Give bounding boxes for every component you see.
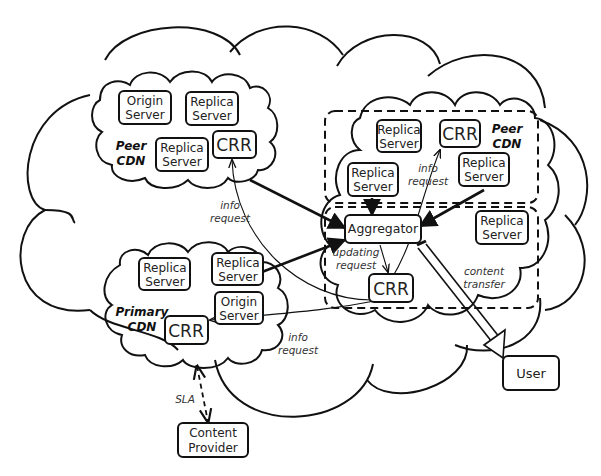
svg-text:Primary: Primary <box>116 305 170 319</box>
replica-server-primary-1[interactable]: Replica Server <box>139 258 190 290</box>
cdn-federation-diagram: Origin Server Replica Server Replica Ser… <box>0 0 601 476</box>
svg-text:CDN: CDN <box>128 320 157 334</box>
replica-server-peer-right-1[interactable]: Replica Server <box>377 120 421 152</box>
svg-text:Replica: Replica <box>160 141 203 155</box>
svg-text:Server: Server <box>464 170 503 184</box>
svg-text:info: info <box>220 199 240 211</box>
svg-text:transfer: transfer <box>463 278 505 290</box>
svg-text:CRR: CRR <box>168 321 204 341</box>
svg-text:Server: Server <box>125 108 164 122</box>
replica-server-peer-left-1[interactable]: Replica Server <box>186 92 238 125</box>
svg-text:Peer: Peer <box>492 122 524 136</box>
svg-text:CDN: CDN <box>493 137 522 151</box>
svg-text:Replica: Replica <box>377 123 420 137</box>
svg-text:Replica: Replica <box>216 256 259 270</box>
svg-text:request: request <box>408 175 449 187</box>
svg-text:Server: Server <box>482 228 521 242</box>
svg-text:Origin: Origin <box>127 94 163 108</box>
svg-text:Replica: Replica <box>480 214 523 228</box>
svg-text:Origin: Origin <box>221 295 257 309</box>
svg-text:Server: Server <box>162 155 201 169</box>
origin-server-peer-left[interactable]: Origin Server <box>119 91 171 124</box>
svg-text:Server: Server <box>353 180 392 194</box>
svg-text:Content: Content <box>189 426 237 440</box>
label-info-request-top: info request <box>408 162 449 187</box>
arrow-peer-replica-to-aggregator <box>250 180 345 228</box>
user[interactable]: User <box>503 356 559 390</box>
svg-text:CRR: CRR <box>216 135 252 155</box>
primary-cdn-label: Primary CDN <box>116 305 170 334</box>
peer-cdn-left-label: Peer CDN <box>116 139 148 168</box>
arrow-content-transfer <box>417 241 505 358</box>
svg-text:CRR: CRR <box>373 279 409 299</box>
svg-text:Server: Server <box>192 109 231 123</box>
svg-text:Peer: Peer <box>116 139 148 153</box>
label-updating-request: updating request <box>333 246 380 271</box>
svg-text:Replica: Replica <box>190 95 233 109</box>
replica-server-primary-2[interactable]: Replica Server <box>212 253 263 285</box>
svg-text:User: User <box>516 366 546 381</box>
svg-text:Replica: Replica <box>143 261 186 275</box>
svg-text:Server: Server <box>219 309 258 323</box>
label-content-transfer: content transfer <box>463 265 505 290</box>
svg-text:info: info <box>418 162 438 174</box>
crr-aggregator-zone[interactable]: CRR <box>369 274 413 302</box>
svg-text:CRR: CRR <box>442 124 478 144</box>
crr-primary[interactable]: CRR <box>165 316 208 344</box>
crr-peer-right[interactable]: CRR <box>440 120 480 147</box>
svg-text:CDN: CDN <box>117 154 146 168</box>
origin-server-primary[interactable]: Origin Server <box>215 292 263 324</box>
svg-text:info: info <box>288 331 308 343</box>
svg-text:content: content <box>464 265 505 277</box>
svg-text:Server: Server <box>218 270 257 284</box>
svg-text:request: request <box>278 344 319 356</box>
label-sla: SLA <box>175 393 195 405</box>
replica-server-peer-right-3[interactable]: Replica Server <box>459 153 509 186</box>
arrow-updating-request <box>380 245 388 272</box>
svg-text:updating: updating <box>333 246 380 258</box>
label-info-request-bottom: info request <box>278 331 319 356</box>
svg-text:request: request <box>210 212 251 224</box>
content-provider[interactable]: Content Provider <box>178 423 248 457</box>
aggregator[interactable]: Aggregator <box>345 215 421 243</box>
svg-text:Provider: Provider <box>188 441 237 455</box>
crr-peer-left[interactable]: CRR <box>213 131 256 158</box>
svg-text:Aggregator: Aggregator <box>348 221 419 236</box>
arrow-sla <box>197 366 208 422</box>
svg-text:request: request <box>336 259 377 271</box>
svg-text:Server: Server <box>379 137 418 151</box>
replica-server-aggregator-zone[interactable]: Replica Server <box>476 211 528 244</box>
svg-text:Replica: Replica <box>462 156 505 170</box>
label-info-request-left: info request <box>210 199 251 224</box>
replica-server-peer-right-2[interactable]: Replica Server <box>348 163 398 196</box>
peer-cdn-right-label: Peer CDN <box>492 122 524 151</box>
replica-server-peer-left-2[interactable]: Replica Server <box>156 138 208 171</box>
svg-text:Replica: Replica <box>351 166 394 180</box>
svg-text:Server: Server <box>145 275 184 289</box>
